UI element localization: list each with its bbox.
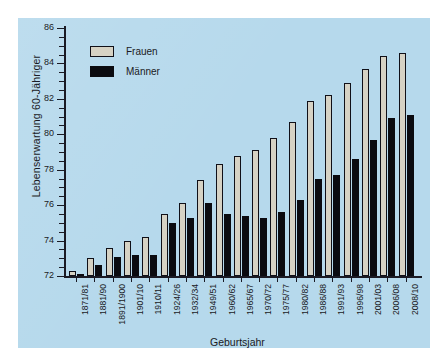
chart-legend: Frauen Männer xyxy=(90,46,160,86)
x-tick xyxy=(131,277,132,282)
x-tick-label: 1881/90 xyxy=(98,284,108,315)
bar-frauen xyxy=(380,56,387,276)
x-tick-label: 1871/81 xyxy=(80,284,90,315)
bar-maenner xyxy=(315,179,322,276)
bar-frauen xyxy=(161,214,168,276)
x-tick-label: 1996/98 xyxy=(355,284,365,315)
y-tick-major xyxy=(57,241,65,242)
x-tick-label: 1924/26 xyxy=(172,284,182,315)
x-tick xyxy=(369,277,370,282)
bar-maenner xyxy=(242,216,249,276)
bar-maenner xyxy=(114,257,121,276)
bar-frauen xyxy=(270,138,277,276)
chart-figure: Lebenserwartung 60-Jähriger Geburtsjahr … xyxy=(0,0,448,363)
bar-maenner xyxy=(95,265,102,276)
x-tick xyxy=(387,277,388,282)
legend-label-frauen: Frauen xyxy=(126,46,158,57)
y-tick-major xyxy=(57,63,65,64)
bar-frauen xyxy=(399,53,406,276)
bar-maenner xyxy=(370,140,377,276)
x-tick-label: 1986/88 xyxy=(318,284,328,315)
bar-frauen xyxy=(252,150,259,276)
bar-maenner xyxy=(333,175,340,276)
x-tick-label: 1949/51 xyxy=(208,284,218,315)
bar-maenner xyxy=(278,212,285,276)
x-tick-label: 1932/34 xyxy=(190,284,200,315)
legend-item-maenner: Männer xyxy=(90,66,160,77)
bar-maenner xyxy=(224,214,231,276)
bar-frauen xyxy=(87,258,94,276)
bar-frauen xyxy=(124,241,131,276)
x-tick-label: 1960/62 xyxy=(227,284,237,315)
bar-frauen xyxy=(142,237,149,276)
legend-swatch-maenner xyxy=(90,66,114,77)
y-tick-label: 80 xyxy=(30,128,54,138)
x-tick xyxy=(241,277,242,282)
bar-maenner xyxy=(187,218,194,276)
legend-item-frauen: Frauen xyxy=(90,46,160,57)
bar-maenner xyxy=(150,255,157,276)
bar-maenner xyxy=(132,255,139,276)
x-tick xyxy=(168,277,169,282)
bar-maenner xyxy=(260,218,267,276)
y-tick-label: 84 xyxy=(30,57,54,67)
y-tick-major xyxy=(57,134,65,135)
bar-frauen xyxy=(69,271,76,276)
bar-frauen xyxy=(216,164,223,276)
bar-frauen xyxy=(325,95,332,276)
x-tick xyxy=(149,277,150,282)
x-tick xyxy=(296,277,297,282)
bar-maenner xyxy=(297,200,304,276)
bar-frauen xyxy=(179,203,186,276)
bar-maenner xyxy=(77,274,84,276)
bar-maenner xyxy=(169,223,176,276)
x-tick-label: 1991/93 xyxy=(336,284,346,315)
bar-maenner xyxy=(388,118,395,276)
bar-maenner xyxy=(407,115,414,276)
x-tick-label: 2006/08 xyxy=(391,284,401,315)
y-tick-major xyxy=(57,170,65,171)
bar-frauen xyxy=(234,156,241,276)
bar-maenner xyxy=(352,159,359,276)
bar-frauen xyxy=(197,180,204,276)
x-tick xyxy=(204,277,205,282)
bar-maenner xyxy=(205,203,212,276)
x-axis-title: Geburtsjahr xyxy=(210,336,265,348)
x-tick-label: 2008/10 xyxy=(410,284,420,315)
y-tick-label: 72 xyxy=(30,270,54,280)
x-tick xyxy=(113,277,114,282)
x-tick-label: 1975/77 xyxy=(281,284,291,315)
y-tick-label: 86 xyxy=(30,22,54,32)
bar-frauen xyxy=(289,122,296,276)
x-tick-label: 1901/10 xyxy=(135,284,145,315)
x-tick xyxy=(76,277,77,282)
y-tick-label: 78 xyxy=(30,164,54,174)
legend-label-maenner: Männer xyxy=(126,66,160,77)
x-tick-label: 1965/67 xyxy=(245,284,255,315)
x-tick-label: 1980/82 xyxy=(300,284,310,315)
x-tick-label: 1970/72 xyxy=(263,284,273,315)
y-tick-label: 74 xyxy=(30,235,54,245)
bar-frauen xyxy=(106,248,113,276)
x-tick xyxy=(406,277,407,282)
x-tick xyxy=(351,277,352,282)
y-tick-major xyxy=(57,99,65,100)
y-tick-major xyxy=(57,276,65,277)
legend-swatch-frauen xyxy=(90,46,114,57)
x-tick xyxy=(94,277,95,282)
y-tick-label: 76 xyxy=(30,199,54,209)
x-tick xyxy=(314,277,315,282)
x-tick xyxy=(186,277,187,282)
bar-frauen xyxy=(344,83,351,276)
x-tick xyxy=(277,277,278,282)
x-tick xyxy=(223,277,224,282)
bar-frauen xyxy=(307,101,314,276)
x-tick-label: 2001/03 xyxy=(373,284,383,315)
y-tick-label: 82 xyxy=(30,93,54,103)
y-tick-major xyxy=(57,28,65,29)
bar-frauen xyxy=(362,69,369,276)
x-tick xyxy=(259,277,260,282)
x-tick-label: 1910/11 xyxy=(153,284,163,314)
x-tick xyxy=(332,277,333,282)
x-tick-label: 1891/1900 xyxy=(117,284,127,325)
